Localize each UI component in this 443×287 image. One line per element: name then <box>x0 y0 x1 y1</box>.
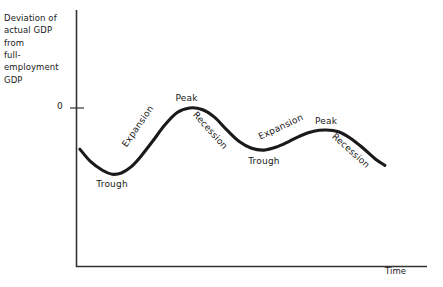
business-cycle-figure: Deviation of actual GDP from full-employ… <box>0 0 443 287</box>
curve-label-peak: Peak <box>175 93 197 103</box>
curve-label-trough: Trough <box>248 156 280 166</box>
curve-label-peak: Peak <box>315 116 337 126</box>
curve-label-trough: Trough <box>96 179 128 189</box>
x-axis-title: Time <box>385 265 435 277</box>
